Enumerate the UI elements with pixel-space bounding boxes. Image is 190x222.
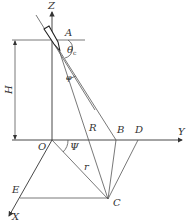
height-label: H	[3, 85, 14, 95]
origin-label: O	[38, 141, 46, 152]
height-arrow-up-icon	[13, 40, 17, 45]
point-a-label: A	[64, 27, 72, 38]
phi-label: φ	[66, 73, 72, 82]
y-axis-label: Y	[178, 126, 186, 137]
z-axis-label: Z	[47, 0, 56, 11]
geometry-diagram: Z A θc φ H R B D Y O Ψ r E C X	[0, 0, 190, 222]
point-b-label: B	[116, 124, 124, 135]
height-arrow-down-icon	[13, 135, 17, 140]
line-b-c	[108, 140, 116, 199]
theta-label: θc	[67, 44, 77, 56]
x-axis-label: X	[11, 211, 20, 222]
point-e-label: E	[11, 184, 20, 195]
psi-arc	[63, 140, 68, 152]
line-d-c	[108, 140, 138, 199]
line-o-c	[52, 140, 108, 199]
horizontal-range-label: r	[84, 161, 90, 172]
point-c-label: C	[113, 197, 121, 208]
point-d-label: D	[134, 124, 143, 135]
line-a-b	[59, 50, 116, 140]
psi-label: Ψ	[70, 141, 80, 152]
slant-range-label: R	[88, 122, 97, 133]
